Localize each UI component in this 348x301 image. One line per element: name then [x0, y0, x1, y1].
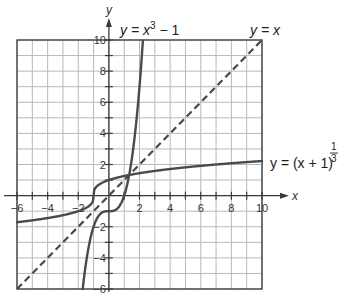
y-tick-label: 8: [100, 65, 106, 77]
annotation-cube-suffix: − 1: [156, 22, 180, 38]
annotation-root-exp-denominator: 3: [331, 153, 337, 164]
chart: −6−4−2246810−6−4−2246810 x y y = x3 − 1 …: [0, 0, 348, 301]
x-tick-label: 8: [228, 202, 234, 214]
y-axis-arrow: [106, 18, 112, 27]
x-tick-label: 4: [167, 202, 173, 214]
annotation-cube: y = x3 − 1: [119, 20, 179, 38]
y-tick-label: 2: [100, 159, 106, 171]
x-tick-label: 2: [136, 202, 142, 214]
x-tick-label: 6: [198, 202, 204, 214]
annotation-cube-prefix: y = x: [119, 22, 151, 38]
annotation-identity: y = x: [249, 22, 281, 38]
x-axis-label: x: [291, 189, 299, 203]
y-tick-label: 6: [100, 96, 106, 108]
x-tick-label: −4: [41, 202, 54, 214]
y-tick-label: −6: [93, 283, 106, 295]
annotation-root: y = (x + 1): [270, 155, 333, 171]
y-tick-label: 10: [94, 34, 106, 46]
annotation-root-exp-numerator: 1: [331, 141, 337, 152]
x-axis-arrow: [280, 193, 289, 199]
y-tick-label: −4: [93, 252, 106, 264]
x-tick-label: −6: [11, 202, 24, 214]
y-tick-label: 4: [100, 127, 106, 139]
y-axis-label: y: [105, 3, 113, 17]
x-tick-label: 10: [256, 202, 268, 214]
